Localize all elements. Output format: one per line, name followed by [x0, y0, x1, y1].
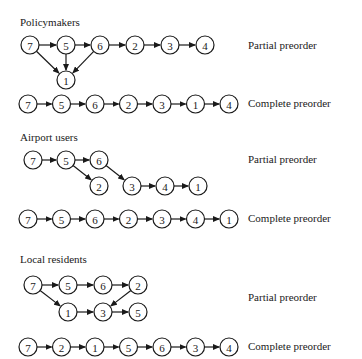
- complete-label-policymakers: Complete preorder: [248, 97, 331, 109]
- node-5: 5: [129, 303, 147, 321]
- node-7: 7: [19, 95, 37, 113]
- svg-text:2: 2: [96, 181, 102, 193]
- svg-text:5: 5: [59, 99, 65, 111]
- svg-text:2: 2: [135, 280, 141, 292]
- svg-text:5: 5: [65, 280, 71, 292]
- arrow-edge: [36, 51, 58, 73]
- node-6: 6: [94, 276, 112, 294]
- arrow-edge: [111, 290, 131, 305]
- node-5: 5: [53, 210, 71, 228]
- svg-text:3: 3: [193, 342, 199, 354]
- complete-label-airport-users: Complete preorder: [248, 212, 331, 224]
- node-5: 5: [57, 151, 75, 169]
- svg-text:1: 1: [65, 307, 71, 319]
- group-title-airport-users: Airport users: [20, 131, 78, 143]
- svg-text:2: 2: [126, 99, 132, 111]
- node-3: 3: [123, 177, 141, 195]
- node-1: 1: [57, 71, 75, 89]
- svg-text:5: 5: [59, 214, 65, 226]
- svg-text:7: 7: [27, 40, 33, 52]
- node-3: 3: [153, 95, 171, 113]
- svg-text:7: 7: [25, 99, 31, 111]
- node-7: 7: [24, 276, 42, 294]
- node-1: 1: [86, 338, 104, 356]
- node-1: 1: [189, 177, 207, 195]
- svg-text:4: 4: [226, 342, 232, 354]
- complete-label-local-residents: Complete preorder: [248, 340, 331, 352]
- svg-text:6: 6: [100, 280, 106, 292]
- svg-text:6: 6: [92, 214, 98, 226]
- node-5: 5: [120, 338, 138, 356]
- node-7: 7: [19, 338, 37, 356]
- svg-text:4: 4: [202, 40, 208, 52]
- svg-text:5: 5: [63, 40, 69, 52]
- arrow-edge: [40, 290, 60, 305]
- node-4: 4: [156, 177, 174, 195]
- node-2: 2: [129, 276, 147, 294]
- arrow-edge: [106, 166, 124, 180]
- node-4: 4: [220, 95, 238, 113]
- svg-text:6: 6: [97, 40, 103, 52]
- svg-text:5: 5: [63, 155, 69, 167]
- node-1: 1: [187, 95, 205, 113]
- node-7: 7: [24, 151, 42, 169]
- svg-text:1: 1: [193, 99, 199, 111]
- node-6: 6: [86, 95, 104, 113]
- node-3: 3: [153, 210, 171, 228]
- node-6: 6: [91, 36, 109, 54]
- partial-label-airport-users: Partial preorder: [248, 153, 317, 165]
- node-5: 5: [53, 95, 71, 113]
- svg-text:3: 3: [100, 307, 106, 319]
- svg-text:6: 6: [92, 99, 98, 111]
- svg-text:4: 4: [162, 181, 168, 193]
- preorder-diagram: 7562341756231475623417562341756213572156…: [0, 0, 362, 359]
- node-4: 4: [220, 338, 238, 356]
- svg-text:5: 5: [135, 307, 141, 319]
- svg-text:7: 7: [30, 280, 36, 292]
- node-7: 7: [21, 36, 39, 54]
- node-7: 7: [19, 210, 37, 228]
- svg-text:5: 5: [126, 342, 132, 354]
- node-5: 5: [57, 36, 75, 54]
- node-3: 3: [187, 338, 205, 356]
- node-4: 4: [187, 210, 205, 228]
- svg-text:3: 3: [167, 40, 173, 52]
- svg-text:4: 4: [193, 214, 199, 226]
- svg-text:4: 4: [226, 99, 232, 111]
- group-title-local-residents: Local residents: [20, 253, 87, 265]
- svg-text:7: 7: [25, 342, 31, 354]
- node-1: 1: [220, 210, 238, 228]
- node-2: 2: [120, 95, 138, 113]
- svg-text:1: 1: [226, 214, 232, 226]
- node-3: 3: [161, 36, 179, 54]
- partial-label-local-residents: Partial preorder: [248, 291, 317, 303]
- partial-label-policymakers: Partial preorder: [248, 39, 317, 51]
- node-1: 1: [59, 303, 77, 321]
- group-title-policymakers: Policymakers: [20, 16, 80, 28]
- svg-text:2: 2: [132, 40, 138, 52]
- svg-text:2: 2: [126, 214, 132, 226]
- svg-text:1: 1: [63, 75, 69, 87]
- arrow-edge: [73, 166, 91, 180]
- node-3: 3: [94, 303, 112, 321]
- node-6: 6: [153, 338, 171, 356]
- node-6: 6: [90, 151, 108, 169]
- node-2: 2: [90, 177, 108, 195]
- svg-text:7: 7: [25, 214, 31, 226]
- svg-text:1: 1: [92, 342, 98, 354]
- svg-text:1: 1: [195, 181, 201, 193]
- svg-text:3: 3: [129, 181, 135, 193]
- svg-text:6: 6: [159, 342, 165, 354]
- svg-text:3: 3: [159, 99, 165, 111]
- node-2: 2: [120, 210, 138, 228]
- arrow-edge: [73, 51, 94, 72]
- node-2: 2: [53, 338, 71, 356]
- svg-text:2: 2: [59, 342, 65, 354]
- svg-text:3: 3: [159, 214, 165, 226]
- node-2: 2: [126, 36, 144, 54]
- node-5: 5: [59, 276, 77, 294]
- node-4: 4: [196, 36, 214, 54]
- svg-text:6: 6: [96, 155, 102, 167]
- svg-text:7: 7: [30, 155, 36, 167]
- node-6: 6: [86, 210, 104, 228]
